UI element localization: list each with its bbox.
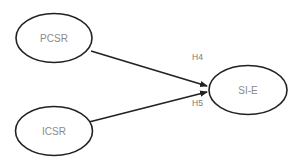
edge-label-h4: H4	[192, 52, 203, 62]
edge-icsr-to-sie: H5	[89, 92, 207, 122]
arrow-h4	[91, 51, 207, 86]
edge-label-h5: H5	[192, 98, 203, 108]
path-diagram: H4 H5 PCSR ICSR SI-E	[0, 0, 305, 158]
node-sie: SI-E	[209, 66, 287, 115]
node-pcsr-label: PCSR	[40, 33, 68, 44]
edge-pcsr-to-sie: H4	[91, 51, 207, 86]
node-icsr: ICSR	[16, 107, 93, 156]
node-sie-label: SI-E	[238, 85, 258, 96]
node-pcsr: PCSR	[16, 14, 92, 63]
node-icsr-label: ICSR	[42, 126, 66, 137]
arrow-h5	[89, 92, 207, 122]
